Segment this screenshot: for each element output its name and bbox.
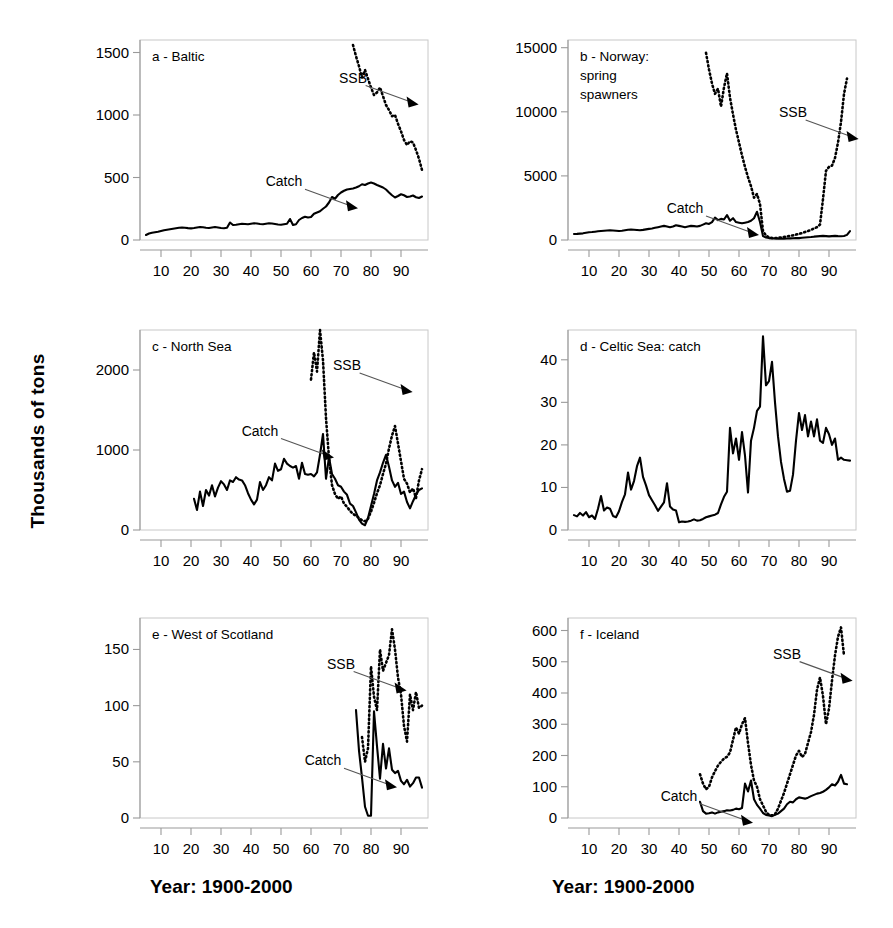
annotation-label: SSB [339,70,367,86]
x-tick-label: 30 [213,840,230,857]
x-tick-label: 20 [183,840,200,857]
y-tick-label: 500 [104,169,129,186]
x-tick-label: 90 [821,840,838,857]
y-tick-label: 100 [532,778,557,795]
x-tick-label: 40 [243,552,260,569]
figure-herring-stocks: Thousands of tons 0500100015001020304050… [0,0,893,928]
x-tick-label: 80 [363,840,380,857]
annotation-leader [700,804,744,820]
x-tick-label: 10 [581,840,598,857]
x-tick-label: 10 [153,840,170,857]
annotation-arrowhead [401,384,413,395]
panel-b-norway: 050001000015000102030405060708090b - Nor… [490,28,870,293]
x-tick-label: 60 [731,552,748,569]
y-tick-label: 100 [104,697,129,714]
panel-c-north-sea: 010002000102030405060708090c - North Sea… [92,318,442,583]
series-catch [194,434,422,525]
x-tick-label: 60 [731,840,748,857]
x-tick-label: 70 [333,552,350,569]
y-tick-label: 0 [121,231,129,248]
panel-title: d - Celtic Sea: catch [580,339,701,354]
x-tick-label: 50 [273,262,290,279]
x-tick-label: 90 [821,262,838,279]
x-tick-label: 90 [821,552,838,569]
x-tick-label: 30 [641,262,658,279]
y-tick-label: 0 [549,231,557,248]
y-tick-label: 10000 [515,103,557,120]
x-tick-label: 20 [611,262,628,279]
annotation-arrowhead [847,131,859,142]
series-catch [574,336,850,522]
annotation-leader [806,120,850,136]
panel-f-iceland: 0100200300400500600102030405060708090f -… [490,606,870,871]
annotation-label: Catch [266,173,303,189]
y-tick-label: 200 [532,747,557,764]
x-tick-label: 60 [303,262,320,279]
y-tick-label: 0 [549,809,557,826]
annotation-arrowhead [741,815,753,826]
x-tick-label: 70 [333,262,350,279]
y-tick-label: 1000 [96,106,129,123]
plot-frame [140,330,428,530]
x-tick-label: 30 [213,552,230,569]
x-tick-label: 30 [641,552,658,569]
panel-title: a - Baltic [152,49,205,64]
y-tick-label: 2000 [96,361,129,378]
x-tick-label: 20 [183,552,200,569]
annotation-arrowhead [407,97,419,108]
x-tick-label: 30 [213,262,230,279]
series-ssb [706,53,847,238]
annotation-arrowhead [747,227,759,238]
annotation-label: SSB [333,357,361,373]
x-tick-label: 10 [581,552,598,569]
annotation-label: SSB [779,104,807,120]
y-tick-label: 1500 [96,44,129,61]
y-tick-label: 0 [549,521,557,538]
annotation-arrowhead [385,779,397,790]
panel-title: spawners [580,87,638,102]
y-tick-label: 400 [532,684,557,701]
annotation-arrowhead [841,673,853,684]
annotation-leader [281,439,325,455]
annotation-label: Catch [242,423,279,439]
x-tick-label: 90 [393,262,410,279]
y-tick-label: 10 [540,478,557,495]
y-tick-label: 50 [112,753,129,770]
x-tick-label: 60 [303,840,320,857]
series-catch [574,212,850,239]
annotation-leader [354,672,398,688]
y-tick-label: 300 [532,715,557,732]
x-tick-label: 90 [393,552,410,569]
x-tick-label: 90 [393,840,410,857]
x-tick-label: 70 [333,840,350,857]
x-tick-label: 40 [671,262,688,279]
annotation-label: Catch [305,752,342,768]
y-tick-label: 20 [540,436,557,453]
y-tick-label: 30 [540,393,557,410]
panel-a-plot: 050010001500102030405060708090a - Baltic… [92,28,442,293]
x-tick-label: 80 [791,840,808,857]
y-tick-label: 500 [532,653,557,670]
plot-frame [140,618,428,818]
x-tick-label: 80 [363,262,380,279]
x-tick-label: 10 [153,552,170,569]
panel-c-plot: 010002000102030405060708090c - North Sea… [92,318,442,583]
x-tick-label: 20 [611,552,628,569]
annotation-label: SSB [773,646,801,662]
x-tick-label: 70 [761,262,778,279]
annotation-arrowhead [346,200,358,211]
panel-title: b - Norway: [580,49,649,64]
x-tick-label: 60 [303,552,320,569]
x-tick-label: 40 [243,840,260,857]
series-catch [356,710,422,816]
series-catch [146,183,422,236]
x-tick-label: 20 [611,840,628,857]
panel-title: f - Iceland [580,627,639,642]
x-tick-label: 60 [731,262,748,279]
panel-title: c - North Sea [152,339,232,354]
series-ssb [353,45,422,170]
y-tick-label: 40 [540,351,557,368]
panel-title: e - West of Scotland [152,627,273,642]
panel-f-plot: 0100200300400500600102030405060708090f -… [490,606,870,871]
x-axis-title-right: Year: 1900-2000 [552,876,695,898]
